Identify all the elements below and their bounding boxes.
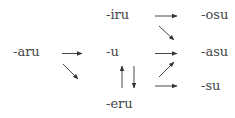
node-su: -su: [201, 79, 220, 93]
node-asu: -asu: [201, 45, 228, 59]
node-aru: -aru: [13, 45, 40, 59]
node-eru: -eru: [106, 97, 133, 111]
arrow-iru-to-asu: [159, 26, 174, 40]
node-u: -u: [106, 45, 119, 59]
arrow-aru-diagonal: [63, 64, 78, 79]
arrow-eru-to-asu: [159, 62, 174, 77]
node-iru: -iru: [106, 8, 129, 22]
node-osu: -osu: [201, 8, 228, 22]
